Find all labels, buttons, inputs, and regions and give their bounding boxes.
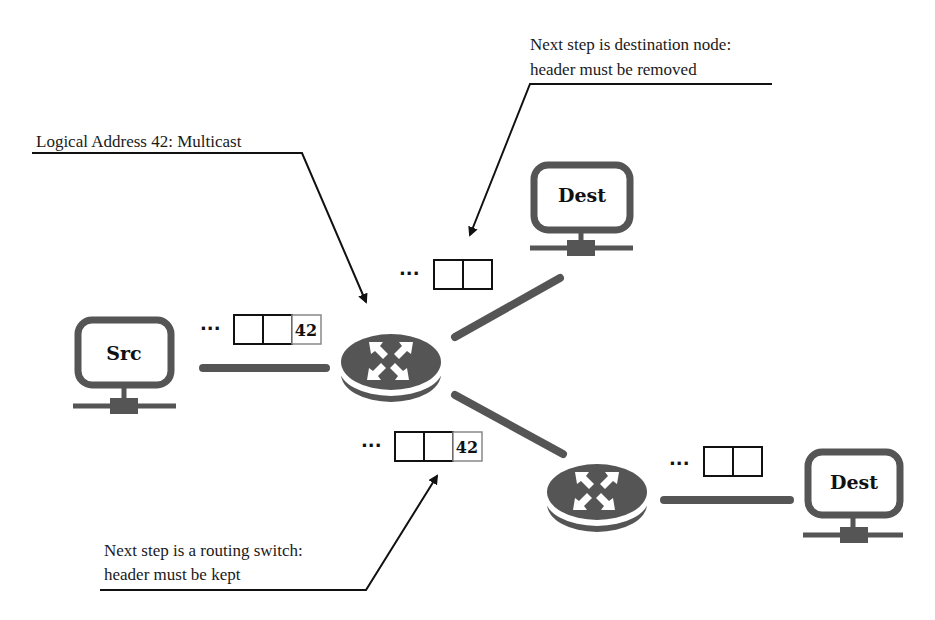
network-port-icon — [110, 398, 138, 414]
packet-cell — [733, 447, 762, 476]
router-2 — [545, 464, 649, 532]
dest-bottom-label: Dest — [830, 471, 878, 493]
dest-top-computer: Dest — [530, 165, 633, 256]
packet-cell — [263, 315, 292, 344]
router-icon — [341, 334, 441, 390]
packet-header-value: 42 — [295, 321, 317, 340]
dest-top-label: Dest — [558, 184, 606, 206]
top-packet: ··· — [399, 260, 492, 289]
dest-note-line1: Next step is destination node: — [530, 35, 731, 54]
src-computer: Src — [73, 320, 176, 414]
switch-annotation: Next step is a routing switch: header mu… — [100, 476, 437, 590]
packet-cell — [704, 447, 733, 476]
packet-cell — [434, 260, 463, 289]
ellipsis: ··· — [669, 453, 690, 474]
network-port-icon — [567, 240, 595, 256]
switch-note-line1: Next step is a routing switch: — [104, 541, 303, 560]
ellipsis: ··· — [200, 318, 221, 339]
middle-packet: ··· 42 — [361, 432, 482, 461]
dest-note-line2: header must be removed — [530, 60, 697, 79]
router-1 — [339, 334, 443, 402]
packet-cell — [234, 315, 263, 344]
packet-cell — [424, 432, 453, 461]
multicast-note-line1: Logical Address 42: Multicast — [36, 132, 242, 151]
router-icon — [547, 464, 647, 520]
network-port-icon — [840, 527, 868, 543]
ellipsis: ··· — [399, 263, 420, 284]
dest-bottom-computer: Dest — [803, 452, 903, 543]
right-packet: ··· — [669, 447, 762, 476]
ellipsis: ··· — [361, 435, 382, 456]
src-packet: ··· 42 — [200, 315, 321, 344]
multicast-annotation: Logical Address 42: Multicast — [32, 132, 366, 302]
network-diagram: Next step is destination node: header mu… — [0, 0, 935, 620]
switch-note-line2: header must be kept — [104, 565, 241, 584]
packet-cell — [395, 432, 424, 461]
src-label: Src — [106, 342, 141, 364]
multicast-note-arrow — [32, 153, 366, 302]
packet-cell — [463, 260, 492, 289]
packet-header-value: 42 — [456, 438, 478, 457]
